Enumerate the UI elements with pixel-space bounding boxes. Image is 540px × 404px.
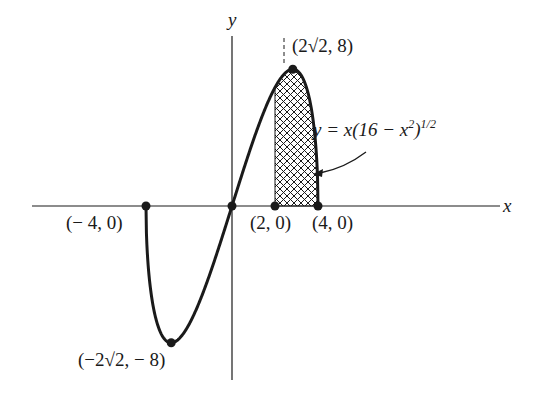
function-label: y = x(16 − x2)1/2 <box>313 118 436 139</box>
point-marker-four <box>314 202 323 211</box>
point-marker-max <box>288 65 297 74</box>
point-marker-min <box>167 338 176 347</box>
function-label-exponent: 1/2 <box>421 117 436 131</box>
shaded-area <box>275 69 318 206</box>
function-graph <box>0 0 540 404</box>
label-arrow <box>320 152 366 173</box>
point-label-min: (−2√2, − 8) <box>78 350 165 369</box>
x-axis-label: x <box>503 196 511 215</box>
y-axis-label: y <box>228 10 236 29</box>
point-label-two: (2, 0) <box>250 213 291 232</box>
point-marker-origin <box>228 202 237 211</box>
function-label-prefix: y = x(16 − x <box>313 119 408 140</box>
point-label-max: (2√2, 8) <box>292 36 353 55</box>
point-marker-two <box>271 202 280 211</box>
point-label-four: (4, 0) <box>312 213 353 232</box>
point-marker-neg4 <box>142 202 151 211</box>
point-label-neg4: (− 4, 0) <box>66 213 123 232</box>
